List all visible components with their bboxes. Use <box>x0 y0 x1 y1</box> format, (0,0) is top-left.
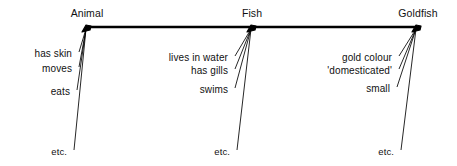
attribute-label-goldfish-1: 'domesticated' <box>327 65 392 76</box>
semantic-network-diagram: Animalhas skinmoveseatsetc.Fishlives in … <box>0 0 457 166</box>
node-title-fish: Fish <box>242 8 262 19</box>
connector-line-goldfish-2 <box>397 29 416 87</box>
attribute-label-fish-1: has gills <box>191 65 228 76</box>
attribute-label-animal-1: moves <box>42 63 72 74</box>
attribute-label-animal-0: has skin <box>35 48 73 59</box>
node-title-goldfish: Goldfish <box>398 8 437 19</box>
attribute-label-fish-2: swims <box>200 84 228 95</box>
attribute-label-goldfish-2: small <box>366 83 390 94</box>
node-title-animal: Animal <box>71 8 104 19</box>
connector-line-animal-3 <box>74 29 86 150</box>
connector-line-animal-2 <box>77 29 86 90</box>
attribute-label-goldfish-0: gold colour <box>342 52 392 63</box>
node-marker-animal <box>82 25 91 32</box>
etc-label-animal-3: etc. <box>51 146 67 157</box>
attribute-label-animal-2: eats <box>51 86 70 97</box>
attribute-label-fish-0: lives in water <box>169 52 228 63</box>
etc-label-fish-3: etc. <box>214 146 230 157</box>
etc-label-goldfish-3: etc. <box>378 146 394 157</box>
connector-line-fish-2 <box>235 29 251 88</box>
